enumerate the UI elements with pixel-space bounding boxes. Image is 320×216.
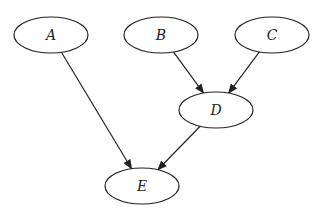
node-a: A xyxy=(14,17,88,53)
node-e: E xyxy=(105,168,179,204)
node-label: B xyxy=(155,27,166,43)
arrow-icon xyxy=(229,52,260,93)
edge-d-to-e xyxy=(158,126,200,169)
edge-c-to-d xyxy=(229,52,260,93)
edge-b-to-d xyxy=(173,52,203,93)
node-b: B xyxy=(124,17,198,53)
node-label: A xyxy=(44,27,56,43)
graph-diagram: ABCDE xyxy=(0,0,320,216)
node-c: C xyxy=(235,17,309,53)
arrow-icon xyxy=(173,52,203,93)
graph-canvas: ABCDE xyxy=(0,0,320,216)
arrow-icon xyxy=(158,126,200,169)
node-label: D xyxy=(209,102,221,118)
edge-a-to-e xyxy=(61,52,131,168)
arrow-icon xyxy=(61,52,131,168)
node-label: E xyxy=(136,178,147,194)
node-d: D xyxy=(179,92,253,128)
node-label: C xyxy=(267,27,278,43)
